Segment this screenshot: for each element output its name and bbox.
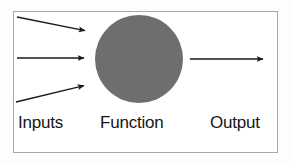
diagram-graphics	[0, 0, 292, 165]
input-arrow-bottom	[16, 86, 84, 102]
label-output: Output	[210, 114, 260, 131]
diagram-canvas: Inputs Function Output	[0, 0, 292, 165]
function-node-circle	[95, 15, 183, 103]
input-arrow-top	[17, 17, 85, 31]
label-function: Function	[100, 114, 164, 131]
label-inputs: Inputs	[18, 114, 63, 131]
